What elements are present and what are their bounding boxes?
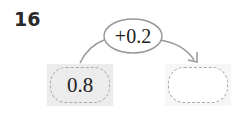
operation-label: +0.2	[103, 18, 163, 54]
start-value: 0.8	[50, 67, 110, 103]
answer-box[interactable]	[165, 64, 231, 106]
answer-field[interactable]	[168, 67, 228, 103]
start-value-box: 0.8	[47, 64, 113, 106]
